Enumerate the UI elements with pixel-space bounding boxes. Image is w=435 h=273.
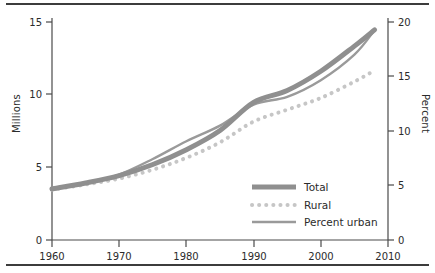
right-tick-label-5: 5	[398, 180, 404, 191]
right-tick-label-20: 20	[398, 17, 411, 28]
x-tick-label-1960: 1960	[39, 251, 64, 262]
x-tick-label-1970: 1970	[106, 251, 131, 262]
x-tick-label-1990: 1990	[241, 251, 266, 262]
left-tick-label-15: 15	[29, 17, 42, 28]
left-tick-label-10: 10	[29, 89, 42, 100]
left-axis-ticks: 15 10 5 0	[29, 17, 52, 246]
figure-container: Millions Percent 15 10 5 0 20 15 10	[0, 0, 435, 273]
chart-plot: 15 10 5 0 20 15 10 5 0 1960 197	[0, 0, 435, 273]
chart-legend: Total Rural Percent urban	[252, 181, 378, 228]
right-tick-label-10: 10	[398, 126, 411, 137]
series-line-total	[52, 30, 375, 189]
x-tick-label-1980: 1980	[173, 251, 198, 262]
right-axis-ticks: 20 15 10 5 0	[388, 17, 411, 246]
legend-label-percent-urban: Percent urban	[304, 216, 378, 228]
right-tick-label-15: 15	[398, 71, 411, 82]
x-tick-label-2010: 2010	[375, 251, 400, 262]
legend-label-rural: Rural	[304, 199, 331, 211]
left-tick-label-5: 5	[36, 162, 42, 173]
left-tick-label-0: 0	[36, 235, 42, 246]
series-line-percent-urban	[52, 30, 375, 189]
x-tick-label-2000: 2000	[308, 251, 333, 262]
x-axis-ticks: 1960 1970 1980 1990 2000 2010	[39, 240, 400, 262]
legend-label-total: Total	[303, 181, 329, 193]
right-tick-label-0: 0	[398, 235, 404, 246]
